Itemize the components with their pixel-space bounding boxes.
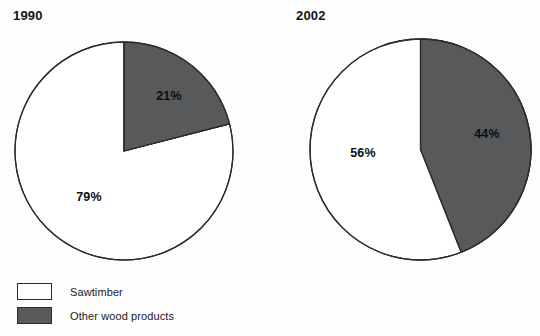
pie-chart-2002 <box>309 38 532 261</box>
pie-chart-1990 <box>14 41 234 261</box>
pie-1990-svg <box>14 41 234 261</box>
legend: Sawtimber Other wood products <box>17 281 277 329</box>
pie-1990-label-other: 21% <box>156 89 182 103</box>
pie-2002-label-other: 44% <box>474 127 500 141</box>
chart-title-2002: 2002 <box>296 8 326 23</box>
legend-label-other-wood-products: Other wood products <box>70 310 174 322</box>
legend-swatch-other-wood-products <box>17 307 52 324</box>
pie-2002-svg <box>309 38 532 261</box>
legend-label-sawtimber: Sawtimber <box>70 286 123 298</box>
legend-item-other-wood-products: Other wood products <box>17 305 277 326</box>
pie-2002-label-sawtimber: 56% <box>350 146 376 160</box>
legend-item-sawtimber: Sawtimber <box>17 281 277 302</box>
chart-title-1990: 1990 <box>13 8 43 23</box>
legend-swatch-sawtimber <box>17 283 52 300</box>
pie-chart-figure: 1990 21% 79% 2002 44% 56% <box>0 0 540 336</box>
pie-1990-label-sawtimber: 79% <box>76 190 102 204</box>
figure-baseline <box>0 333 540 334</box>
